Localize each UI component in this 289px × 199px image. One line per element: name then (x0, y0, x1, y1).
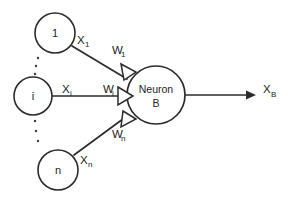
ellipsis-dot-upper-1 (37, 57, 39, 59)
neuron-diagram-svg: 1 i n Neuron B X 1 X i X n W 1 W i W n X… (0, 0, 289, 199)
ellipsis-dot-upper-3 (34, 73, 36, 75)
ellipsis-dot-lower-2 (35, 130, 37, 132)
signal-sub-i: i (70, 89, 72, 98)
ellipsis-dot-lower-1 (34, 120, 36, 122)
output-arrowhead-icon (246, 91, 256, 100)
signal-label-1: X (77, 34, 85, 46)
signal-label-i: X (62, 83, 70, 95)
weight-sub-n: n (121, 134, 125, 143)
neuron-label-line1: Neuron (139, 83, 174, 95)
neuron-body-circle[interactable] (127, 66, 185, 124)
input-node-label-1: 1 (52, 27, 58, 39)
signal-sub-n: n (88, 160, 92, 169)
weight-sub-1: 1 (121, 50, 126, 59)
signal-sub-1: 1 (85, 40, 90, 49)
neuron-diagram-canvas: 1 i n Neuron B X 1 X i X n W 1 W i W n X… (0, 0, 289, 199)
output-sub: B (271, 90, 276, 99)
weight-sub-i: i (112, 89, 114, 98)
output-label: X (263, 83, 271, 95)
signal-label-n: X (80, 154, 88, 166)
ellipsis-dot-upper-2 (35, 65, 37, 67)
input-node-label-i: i (32, 90, 34, 102)
neuron-label-line2: B (152, 97, 159, 109)
ellipsis-dot-lower-3 (37, 140, 39, 142)
input-node-label-n: n (55, 164, 61, 176)
